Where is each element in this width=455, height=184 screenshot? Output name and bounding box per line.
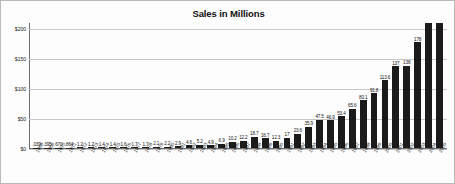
bar-slot[interactable]: 250 [434,23,445,148]
bar-slot[interactable]: 1.6 [118,23,129,148]
x-label-slot: 1984 [205,150,216,184]
x-label-slot: 1987 [238,150,249,184]
bar-slot[interactable]: 5.2 [194,23,205,148]
bar-slot[interactable]: 16.7 [260,23,271,148]
bar-value-label: 35.9 [305,121,313,126]
x-label-slot: 1970 [53,150,64,184]
x-label-slot: 1990 [271,150,282,184]
bar-value-label: 18.7 [250,131,258,136]
bar-slot[interactable]: 178 [412,23,423,148]
bar-slot[interactable]: 1.4 [96,23,107,148]
bar-slot[interactable]: .395 [42,23,53,148]
bar-slot[interactable]: .670 [53,23,64,148]
bar-slot[interactable]: 250 [423,23,434,148]
y-axis-tick-label: $0 [20,146,26,152]
plot-area: $0$50$100$150$200 .039.395.670.8641.21.2… [29,23,447,149]
bar-slot[interactable]: 2.9 [173,23,184,148]
x-label-slot: 1983 [194,150,205,184]
bar-series: .039.395.670.8641.21.21.41.41.61.71.72.1… [29,23,447,148]
bar-slot[interactable]: 2.2 [162,23,173,148]
x-label-slot: 2001 [390,150,401,184]
bar-value-label: 91.8 [370,88,378,93]
x-axis-labels: 1968196919701971197219731974197519761977… [29,150,447,184]
bar-value-label: 12.3 [272,135,280,140]
bar[interactable] [403,66,410,148]
x-label-slot: 1973 [85,150,96,184]
x-label-slot: 1988 [249,150,260,184]
bar[interactable] [382,80,389,148]
bar-slot[interactable]: .864 [64,23,75,148]
bar-slot[interactable]: 2.1 [151,23,162,148]
bar-slot[interactable]: 6.9 [216,23,227,148]
x-label-slot: 1981 [173,150,184,184]
bar-value-label: 46.9 [326,115,334,120]
bar-value-label: 17 [285,132,290,137]
bar-value-label: 47.5 [315,114,323,119]
bar[interactable] [392,66,399,148]
y-axis-tick-label: $200 [15,26,26,32]
bar-slot[interactable]: 53.4 [336,23,347,148]
bar-value-label: 23.6 [294,128,302,133]
bar-value-label: 12.2 [239,135,247,140]
bar-value-label: 65.6 [348,103,356,108]
bar-slot[interactable]: 4.6 [183,23,194,148]
bar-value-label: 6.9 [219,138,225,143]
bar-slot[interactable]: 18.7 [249,23,260,148]
y-axis-tick-label: $150 [15,56,26,62]
bar-slot[interactable]: 1.7 [129,23,140,148]
x-label-slot: 1994 [314,150,325,184]
bar-slot[interactable]: 1.2 [85,23,96,148]
x-label-slot: 1977 [129,150,140,184]
bar[interactable] [436,23,443,148]
bar-value-label: 138 [403,60,410,65]
x-label-slot: 1999 [369,150,380,184]
x-label-slot: 1993 [303,150,314,184]
bar[interactable] [360,100,367,148]
bar-slot[interactable]: 1.4 [107,23,118,148]
bar-slot[interactable]: 137 [390,23,401,148]
x-label-slot: 2002 [401,150,412,184]
bar-slot[interactable]: 46.9 [325,23,336,148]
bar-value-label: 178 [414,37,421,42]
bar-slot[interactable]: 47.5 [314,23,325,148]
x-label-slot: 1969 [42,150,53,184]
chart-container: Sales in Millions $0$50$100$150$200 .039… [0,0,455,184]
bar-slot[interactable]: 4.9 [205,23,216,148]
x-label-slot: 2004 [423,150,434,184]
x-label-slot: 1974 [96,150,107,184]
bar-slot[interactable]: 1.7 [140,23,151,148]
bar-slot[interactable]: 12.3 [271,23,282,148]
bar-slot[interactable]: 1.2 [75,23,86,148]
bar[interactable] [414,42,421,148]
bar[interactable] [371,93,378,148]
bar-slot[interactable]: 113.6 [380,23,391,148]
bar-slot[interactable]: 91.8 [369,23,380,148]
chart-title: Sales in Millions [1,8,455,19]
x-label-slot: 1986 [227,150,238,184]
x-label-slot: 1972 [75,150,86,184]
x-label-slot: 2005 [434,150,445,184]
x-label-slot: 1996 [336,150,347,184]
x-label-slot: 1989 [260,150,271,184]
x-label-slot: 1980 [162,150,173,184]
bar-slot[interactable]: .039 [31,23,42,148]
bar-slot[interactable]: 35.9 [303,23,314,148]
bar-slot[interactable]: 10.2 [227,23,238,148]
bar-slot[interactable]: 65.6 [347,23,358,148]
x-label-slot: 1975 [107,150,118,184]
bar-slot[interactable]: 17 [281,23,292,148]
bar-slot[interactable]: 23.6 [292,23,303,148]
bar-slot[interactable]: 12.2 [238,23,249,148]
bar-slot[interactable]: 138 [401,23,412,148]
x-label-slot: 1978 [140,150,151,184]
bar[interactable] [425,23,432,148]
bar-value-label: 53.4 [337,111,345,116]
bar-value-label: 16.7 [261,133,269,138]
y-axis-tick-label: $50 [18,116,26,122]
x-label-slot: 1979 [151,150,162,184]
x-label-slot: 2003 [412,150,423,184]
x-label-slot: 1991 [281,150,292,184]
bar-slot[interactable]: 80.1 [358,23,369,148]
x-label-slot: 1997 [347,150,358,184]
x-label-slot: 1982 [183,150,194,184]
